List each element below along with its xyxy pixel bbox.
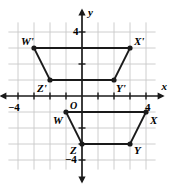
- vertex-label: X: [150, 115, 157, 126]
- vertex-label: Y': [116, 83, 126, 94]
- coordinate-plane-figure: −444−4W'X'Y'Z'WXYZ O x y: [0, 0, 186, 187]
- vertex-label: Y: [134, 145, 141, 156]
- x-axis-arrow-left: [0, 92, 6, 99]
- vertex-dot: [63, 109, 68, 114]
- vertex-label: Z: [70, 145, 77, 156]
- vertex-dot: [127, 45, 132, 50]
- x-tick-label: 4: [145, 102, 151, 113]
- origin-label: O: [70, 101, 77, 111]
- coordinate-plane-svg: [0, 0, 186, 187]
- x-tick-label: −4: [8, 102, 20, 113]
- vertex-label: W: [53, 115, 63, 126]
- vertex-label: W': [21, 36, 34, 47]
- x-axis-label: x: [162, 81, 168, 92]
- vertex-dot: [127, 141, 132, 146]
- y-axis-label: y: [88, 7, 93, 18]
- vertex-label: X': [134, 36, 144, 47]
- y-axis-arrow-up: [78, 8, 85, 15]
- y-axis-arrow-down: [78, 177, 85, 184]
- y-tick-label: 4: [73, 26, 79, 37]
- x-axis-arrow-right: [158, 92, 165, 99]
- vertex-dot: [79, 141, 84, 146]
- vertex-label: Z': [37, 83, 47, 94]
- vertex-dot: [47, 77, 52, 82]
